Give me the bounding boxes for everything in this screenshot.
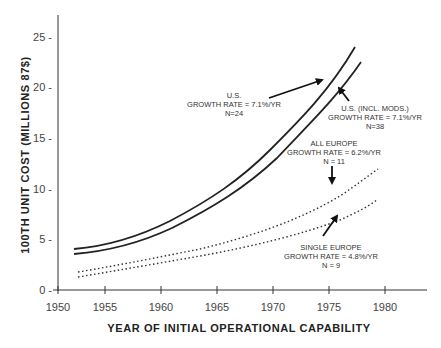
svg-text:N = 9: N = 9 [322, 261, 340, 270]
x-tick-1970: 1970 [261, 301, 285, 313]
annotation-single-europe: SINGLE EUROPE GROWTH RATE = 4.8%/YR N = … [284, 216, 378, 270]
svg-text:GROWTH RATE = 7.1%/YR: GROWTH RATE = 7.1%/YR [187, 100, 281, 109]
y-tick-15: 15 - [33, 132, 52, 144]
annotation-all-europe: ALL EUROPE GROWTH RATE = 6.2%/YR N = 11 [287, 139, 381, 183]
svg-text:GROWTH RATE = 6.2%/YR: GROWTH RATE = 6.2%/YR [287, 148, 381, 157]
y-axis-title: 100TH UNIT COST (MILLIONS 87$) [19, 56, 31, 254]
x-tick-1980: 1980 [373, 301, 397, 313]
series-us-incl-mods [74, 62, 361, 254]
annotation-us-incl-mods: U.S. (INCL. MODS.) GROWTH RATE = 7.1%/YR… [328, 88, 422, 131]
svg-text:GROWTH RATE = 7.1%/YR: GROWTH RATE = 7.1%/YR [328, 113, 422, 122]
svg-text:N=38: N=38 [366, 122, 384, 131]
y-tick-5: 5 - [39, 233, 52, 245]
svg-text:U.S.: U.S. [227, 91, 242, 100]
svg-text:GROWTH RATE = 4.8%/YR: GROWTH RATE = 4.8%/YR [284, 252, 378, 261]
x-tick-1955: 1955 [93, 301, 117, 313]
x-axis-title: YEAR OF INITIAL OPERATIONAL CAPABILITY [107, 322, 370, 334]
x-tick-1975: 1975 [317, 301, 341, 313]
annotation-us: U.S. GROWTH RATE = 7.1%/YR N=24 [187, 80, 322, 118]
svg-text:U.S. (INCL. MODS.): U.S. (INCL. MODS.) [341, 104, 409, 113]
x-tick-1965: 1965 [205, 301, 229, 313]
x-tick-1960: 1960 [149, 301, 173, 313]
y-tick-25: 25 - [33, 31, 52, 43]
y-tick-0: 0 - [39, 284, 52, 296]
svg-text:ALL EUROPE: ALL EUROPE [311, 139, 358, 148]
chart: 0 - 5 - 10 - 15 - 20 - 25 - 1950 1955 19… [0, 0, 441, 348]
arrow-us-mods-icon [339, 88, 349, 101]
svg-text:N = 11: N = 11 [323, 157, 345, 166]
svg-text:N=24: N=24 [225, 109, 243, 118]
y-tick-10: 10 - [33, 183, 52, 195]
x-axis [53, 286, 427, 294]
y-tick-20: 20 - [33, 81, 52, 93]
y-tick-labels: 0 - 5 - 10 - 15 - 20 - 25 - [33, 31, 52, 296]
x-tick-labels: 1950 1955 1960 1965 1970 1975 1980 [46, 301, 397, 313]
x-tick-1950: 1950 [46, 301, 70, 313]
arrow-us-icon [269, 80, 322, 98]
svg-text:SINGLE EUROPE: SINGLE EUROPE [300, 243, 361, 252]
